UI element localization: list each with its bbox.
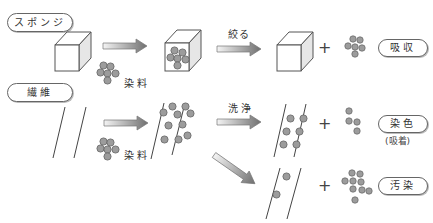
dye-cluster-released-icon xyxy=(345,36,365,57)
dye-cluster-bottom-icon xyxy=(97,138,119,160)
diagram-graphics xyxy=(0,0,433,223)
dye-cluster-top-icon xyxy=(97,62,119,84)
fiber-with-dye-icon xyxy=(151,103,194,159)
arrow-squeeze-icon xyxy=(217,42,261,56)
arrow-wash-icon xyxy=(217,115,261,129)
sponge-cube-icon xyxy=(55,32,91,71)
arrow-diagonal-icon xyxy=(210,149,259,189)
dye-washed-out-icon xyxy=(346,108,360,134)
arrow-dye-bottom-icon xyxy=(104,116,148,130)
fiber-lines-icon xyxy=(53,107,86,158)
stained-fiber-icon xyxy=(266,168,301,219)
squeezed-sponge-cube-icon xyxy=(277,32,313,71)
dyed-fiber-icon xyxy=(274,104,307,157)
dye-cluster-staining-icon xyxy=(342,170,372,203)
arrow-dye-top-icon xyxy=(103,39,147,53)
